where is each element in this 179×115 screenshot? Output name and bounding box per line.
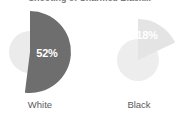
pie-chart-plot-area: 52% 18% [0, 0, 179, 115]
pie-chart-figure: Shooting of Unarmed Black... 52% 18% Whi… [0, 0, 179, 115]
pie-value-label-black: 18% [136, 29, 158, 41]
category-label-white: White [0, 99, 80, 110]
pie-group-white[interactable]: 52% [9, 11, 71, 93]
category-label-black: Black [99, 99, 179, 110]
pie-group-black[interactable]: 18% [117, 19, 175, 81]
pie-value-label-white: 52% [36, 47, 58, 59]
